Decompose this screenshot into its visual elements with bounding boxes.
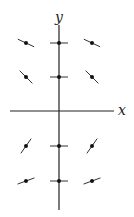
grid-point [90,179,94,183]
diagram-canvas: y x [0,0,134,217]
grid-point [90,41,94,45]
grid-point [57,179,61,183]
grid-point [90,144,94,148]
y-axis-label: y [54,9,64,25]
grid-point [57,75,61,79]
grid-point [24,179,28,183]
grid-point [57,41,61,45]
x-axis-label: x [118,102,126,118]
grid-point [24,144,28,148]
grid-point [24,75,28,79]
grid-point [90,75,94,79]
grid-point [24,41,28,45]
slope-field-diagram: y x [0,0,134,217]
grid-point [57,144,61,148]
